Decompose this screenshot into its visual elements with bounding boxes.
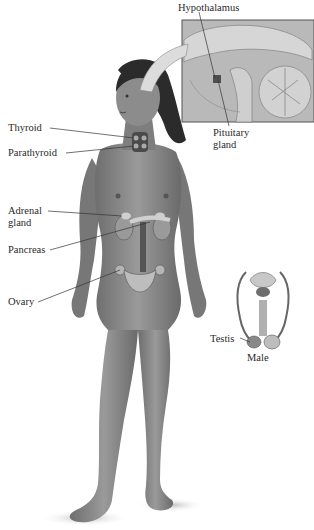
endocrine-diagram: Hypothalamus Pituitary gland Thyroid Par… [0, 0, 314, 530]
label-pituitary-line1: Pituitary [213, 127, 249, 139]
label-adrenal-line1: Adrenal [8, 205, 42, 217]
leader-thyroid [50, 128, 134, 138]
label-adrenal-line2: gland [8, 217, 31, 229]
label-testis: Testis [210, 333, 234, 345]
brain-sagittal-inset [182, 20, 314, 122]
label-pituitary-line2: gland [213, 139, 236, 151]
label-thyroid: Thyroid [8, 122, 42, 134]
thyroid-parathyroid-glands [132, 132, 148, 152]
label-pancreas: Pancreas [8, 244, 45, 256]
pituitary-gland-shape [213, 75, 221, 83]
figure-artwork [0, 0, 314, 530]
label-parathyroid: Parathyroid [8, 147, 57, 159]
label-ovary: Ovary [8, 296, 34, 308]
label-hypothalamus: Hypothalamus [178, 2, 239, 14]
label-male-caption: Male [247, 352, 269, 364]
male-reproductive-inset [238, 272, 289, 349]
